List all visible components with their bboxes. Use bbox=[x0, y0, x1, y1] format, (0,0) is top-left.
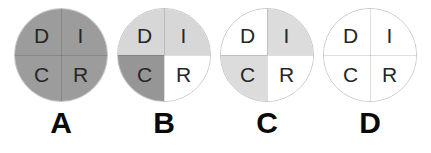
quadrant-letter-c: C bbox=[228, 55, 267, 94]
disc-figure: D I C R A D I bbox=[0, 0, 431, 153]
disc-label-d: D bbox=[359, 108, 381, 138]
disc-a-letters: D I C R bbox=[22, 16, 100, 94]
disc-group-b: D I C R B bbox=[117, 8, 211, 138]
disc-group-a: D I C R A bbox=[14, 8, 108, 138]
disc-label-b: B bbox=[153, 108, 175, 138]
disc-b: D I C R bbox=[117, 8, 211, 102]
disc-c: D I C R bbox=[220, 8, 314, 102]
disc-label-a: A bbox=[50, 108, 72, 138]
disc-a: D I C R bbox=[14, 8, 108, 102]
disc-group-c: D I C R C bbox=[220, 8, 314, 138]
quadrant-letter-d: D bbox=[331, 16, 370, 55]
quadrant-letter-i: I bbox=[61, 16, 100, 55]
quadrant-letter-c: C bbox=[125, 55, 164, 94]
disc-row: D I C R A D I bbox=[0, 0, 431, 138]
quadrant-letter-r: R bbox=[370, 55, 409, 94]
disc-label-c: C bbox=[256, 108, 278, 138]
disc-b-letters: D I C R bbox=[125, 16, 203, 94]
disc-d: D I C R bbox=[323, 8, 417, 102]
quadrant-letter-r: R bbox=[164, 55, 203, 94]
quadrant-letter-c: C bbox=[22, 55, 61, 94]
quadrant-letter-r: R bbox=[267, 55, 306, 94]
quadrant-letter-i: I bbox=[370, 16, 409, 55]
quadrant-letter-i: I bbox=[267, 16, 306, 55]
quadrant-letter-d: D bbox=[228, 16, 267, 55]
quadrant-letter-r: R bbox=[61, 55, 100, 94]
disc-c-letters: D I C R bbox=[228, 16, 306, 94]
disc-d-letters: D I C R bbox=[331, 16, 409, 94]
disc-group-d: D I C R D bbox=[323, 8, 417, 138]
quadrant-letter-i: I bbox=[164, 16, 203, 55]
quadrant-letter-c: C bbox=[331, 55, 370, 94]
quadrant-letter-d: D bbox=[125, 16, 164, 55]
quadrant-letter-d: D bbox=[22, 16, 61, 55]
